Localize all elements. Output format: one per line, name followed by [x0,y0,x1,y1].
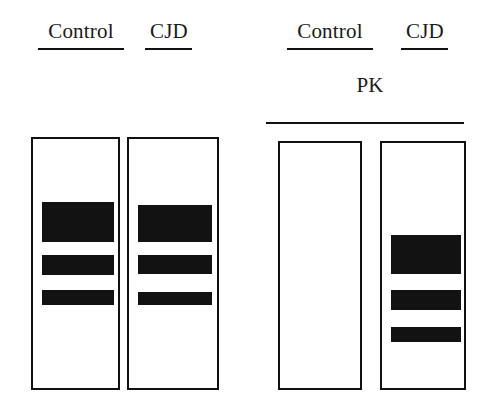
treatment-group-rule [266,122,464,124]
lane-label-underline-lane-4 [401,48,448,50]
lane-box-lane-4 [380,141,466,390]
lane-label-lane-3: Control [285,19,375,46]
protein-band-band-lower-lane-2 [138,292,212,305]
treatment-label-proteinase-K-treated: PK [300,73,440,99]
western-blot-figure: ControlCJDPKControlCJD [0,0,492,416]
lane-label-underline-lane-2 [145,48,192,50]
lane-box-lane-1 [31,137,120,390]
protein-band-band-lower-lane-1 [42,290,114,305]
protein-band-band-upper-lane-4 [391,235,461,274]
lane-label-underline-lane-3 [287,48,373,50]
protein-band-band-lower-lane-4 [391,327,461,342]
protein-band-band-upper-lane-1 [42,202,114,242]
lane-label-lane-2: CJD [143,19,195,46]
protein-band-band-middle-lane-2 [138,255,212,274]
lane-label-lane-4: CJD [399,19,451,46]
protein-band-band-middle-lane-4 [391,290,461,310]
lane-label-lane-1: Control [36,19,126,46]
lane-label-underline-lane-1 [38,48,124,50]
protein-band-band-middle-lane-1 [42,255,114,275]
lane-box-lane-2 [127,137,219,390]
protein-band-band-upper-lane-2 [138,205,212,242]
lane-box-lane-3 [278,141,362,390]
